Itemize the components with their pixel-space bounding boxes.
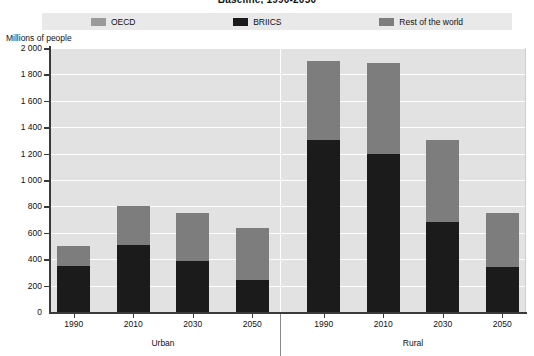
bar-segment-upper [236, 228, 269, 281]
bar-segment-briics [307, 140, 340, 312]
x-axis-tick-label: 2030 [418, 319, 468, 329]
legend-item-label: BRIICS [253, 17, 281, 27]
bar-segment-briics [176, 261, 209, 312]
x-axis-tick-label: 1990 [299, 319, 349, 329]
bar-segment-upper [426, 140, 459, 222]
x-axis-tick [383, 314, 384, 318]
x-axis-tick-label: 1990 [49, 319, 99, 329]
x-axis-tick-label: 2010 [358, 319, 408, 329]
bar-segment-briics [426, 222, 459, 312]
gridline [50, 48, 526, 49]
group-separator [280, 314, 281, 356]
y-axis-tick-label: 800 [2, 202, 42, 211]
gridline [50, 101, 526, 102]
y-axis-tick [44, 259, 50, 261]
bar-segment-briics [236, 280, 269, 312]
y-axis-tick [44, 286, 50, 288]
x-axis-tick [324, 314, 325, 318]
x-axis-tick [252, 314, 253, 318]
chart-legend: OECDBRIICSRest of the world [42, 13, 512, 30]
chart-title: Baseline, 1990-2050 [0, 0, 534, 4]
bar-urban-1990[interactable] [57, 246, 90, 312]
x-axis-tick [502, 314, 503, 318]
x-axis-tick [133, 314, 134, 318]
bar-urban-2010[interactable] [117, 206, 150, 312]
y-axis-tick [44, 127, 50, 129]
y-axis-tick-label: 200 [2, 282, 42, 291]
legend-swatch-oecd [91, 18, 106, 26]
y-axis-tick-label: 400 [2, 255, 42, 264]
y-axis-tick [44, 206, 50, 208]
y-axis-tick [44, 154, 50, 156]
bar-segment-briics [117, 245, 150, 312]
gridline [50, 74, 526, 75]
bar-rural-2010[interactable] [367, 63, 400, 312]
x-axis-tick-label: 2050 [227, 319, 277, 329]
x-axis-group-label-rural: Rural [363, 338, 463, 348]
y-axis-tick [44, 74, 50, 76]
y-axis-tick [44, 48, 50, 50]
legend-swatch-briics [233, 18, 248, 26]
bar-rural-2030[interactable] [426, 140, 459, 312]
y-axis-tick-label: 1 000 [2, 176, 42, 185]
legend-item-rest-of-the-world[interactable]: Rest of the world [379, 17, 463, 27]
legend-item-briics[interactable]: BRIICS [233, 17, 281, 27]
plot-right-edge [525, 48, 526, 312]
bar-urban-2030[interactable] [176, 213, 209, 312]
x-axis-tick [443, 314, 444, 318]
y-axis-tick-label: 1 200 [2, 150, 42, 159]
bar-segment-upper [367, 63, 400, 154]
x-axis-band: 19902010203020501990201020302050UrbanRur… [50, 314, 526, 356]
x-axis-tick [193, 314, 194, 318]
legend-item-label: OECD [111, 17, 136, 27]
x-axis-tick [74, 314, 75, 318]
group-separator-plot [280, 48, 281, 312]
y-axis-tick-label: 1 800 [2, 70, 42, 79]
x-axis-tick-label: 2010 [108, 319, 158, 329]
y-axis-title: Millions of people [6, 33, 72, 43]
y-axis-tick [44, 180, 50, 182]
y-axis-tick-label: 0 [2, 308, 42, 317]
bar-segment-briics [57, 266, 90, 312]
x-axis-group-label-urban: Urban [113, 338, 213, 348]
y-axis-tick-label: 1 600 [2, 97, 42, 106]
legend-swatch-rest-of-the-world [379, 18, 394, 26]
y-axis-tick-label: 600 [2, 229, 42, 238]
y-axis-tick-label: 1 400 [2, 123, 42, 132]
plot-area [50, 48, 526, 312]
chart-root: Baseline, 1990-2050 OECDBRIICSRest of th… [0, 0, 534, 356]
x-axis-tick-label: 2030 [168, 319, 218, 329]
y-axis-labels: 2 0001 8001 6001 4001 2001 0008006004002… [0, 48, 42, 312]
bar-segment-upper [117, 206, 150, 244]
bar-segment-briics [367, 154, 400, 312]
bar-rural-2050[interactable] [486, 213, 519, 312]
bar-segment-upper [57, 246, 90, 266]
legend-item-label: Rest of the world [399, 17, 463, 27]
bar-segment-upper [486, 213, 519, 267]
bar-urban-2050[interactable] [236, 228, 269, 312]
bar-segment-briics [486, 267, 519, 312]
y-axis-tick-label: 2 000 [2, 44, 42, 53]
y-axis-tick [44, 233, 50, 235]
bar-segment-upper [176, 213, 209, 261]
legend-item-oecd[interactable]: OECD [91, 17, 136, 27]
bar-rural-1990[interactable] [307, 61, 340, 312]
bar-segment-upper [307, 61, 340, 140]
gridline [50, 127, 526, 128]
x-axis-tick-label: 2050 [477, 319, 527, 329]
y-axis-tick [44, 101, 50, 103]
